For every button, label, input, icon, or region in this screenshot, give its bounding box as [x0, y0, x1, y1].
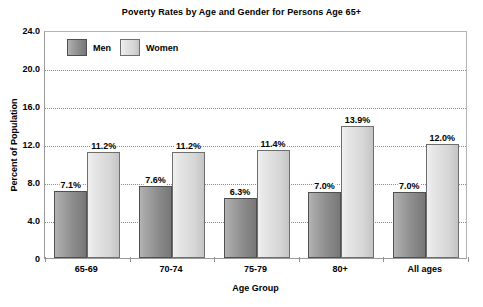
- y-axis-tick-label: 20.0: [6, 64, 40, 74]
- poverty-rates-bar-chart: Poverty Rates by Age and Gender for Pers…: [0, 0, 483, 307]
- bar-men[interactable]: 7.0%: [393, 192, 426, 259]
- legend-swatch-women-icon: [120, 39, 140, 56]
- x-axis-tick-labels: 65-6970-7475-7980+All ages: [44, 264, 467, 280]
- bars-layer: 7.1%11.2%7.6%11.2%6.3%11.4%7.0%13.9%7.0%…: [45, 32, 466, 258]
- bar-group: 7.0%12.0%: [45, 32, 468, 258]
- y-axis-tick-label: 24.0: [6, 26, 40, 36]
- x-axis-tick-label: 75-79: [213, 264, 298, 274]
- y-axis-tick-label: 4.0: [6, 216, 40, 226]
- chart-title: Poverty Rates by Age and Gender for Pers…: [0, 7, 483, 17]
- x-axis-tick: [468, 257, 469, 262]
- legend-label-men: Men: [93, 43, 111, 53]
- chart-legend: Men Women: [67, 39, 178, 56]
- legend-entry-men: Men: [67, 39, 111, 56]
- plot-area: 7.1%11.2%7.6%11.2%6.3%11.4%7.0%13.9%7.0%…: [44, 31, 467, 259]
- y-axis-tick-label: 8.0: [6, 178, 40, 188]
- x-axis-tick-label: 80+: [298, 264, 383, 274]
- x-axis-tick-label: 65-69: [44, 264, 129, 274]
- bar-women[interactable]: 12.0%: [426, 144, 459, 258]
- legend-entry-women: Women: [120, 39, 178, 56]
- bar-value-label: 7.0%: [398, 181, 421, 191]
- x-axis-title: Age Group: [44, 283, 467, 293]
- y-axis-tick-label: 16.0: [6, 102, 40, 112]
- y-axis-tick-labels: 04.08.012.016.020.024.0: [0, 0, 40, 307]
- legend-swatch-men-icon: [67, 39, 87, 56]
- y-axis-tick-label: 0: [6, 254, 40, 264]
- x-axis-tick-label: All ages: [382, 264, 467, 274]
- x-axis-tick: [383, 257, 384, 262]
- x-axis-tick-label: 70-74: [129, 264, 214, 274]
- bar-value-label: 12.0%: [428, 133, 456, 143]
- y-axis-tick-label: 12.0: [6, 140, 40, 150]
- legend-label-women: Women: [146, 43, 178, 53]
